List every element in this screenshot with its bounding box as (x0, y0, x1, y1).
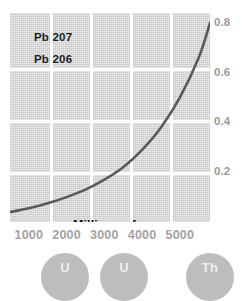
y-axis-tick-label: 0.8 (214, 16, 230, 28)
data-curve-svg (10, 13, 210, 222)
series-label-pb206: Pb 206 (34, 53, 72, 65)
series-label-pb207: Pb 207 (34, 31, 72, 43)
element-chip-u: U (41, 253, 89, 301)
y-axis-tick-label: 0.2 (214, 165, 230, 177)
x-axis-tick-label: 5000 (158, 228, 202, 242)
x-axis-tick-labels: 10002000300040005000 (10, 228, 215, 246)
x-axis-title: Millions of years (73, 218, 173, 222)
element-chip-row: UUTh (0, 253, 242, 279)
chart-plot-area: Pb 207 Pb 206 Millions of years (10, 13, 210, 222)
pb-ratio-curve (10, 23, 210, 212)
element-chip-u: U (100, 253, 148, 301)
element-chip-th: Th (186, 253, 234, 301)
y-axis-tick-label: 0.4 (214, 115, 230, 127)
y-axis-tick-label: 0.6 (214, 66, 230, 78)
